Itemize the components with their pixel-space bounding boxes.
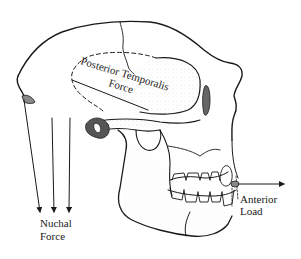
anterior-label-line1: Anterior bbox=[240, 193, 278, 205]
mandible bbox=[118, 130, 238, 236]
anterior-load-label: Anterior Load bbox=[240, 193, 278, 217]
nuchal-label-line1: Nuchal bbox=[40, 217, 72, 229]
anterior-label-line2: Load bbox=[240, 205, 263, 217]
nuchal-force-arrows bbox=[24, 100, 70, 212]
nuchal-label: Nuchal Force bbox=[40, 217, 72, 242]
zygomatic-arch bbox=[86, 118, 200, 150]
orbit bbox=[203, 86, 210, 116]
nuchal-label-line2: Force bbox=[40, 230, 65, 242]
incisor-contact-point bbox=[231, 181, 239, 187]
skull-force-diagram: Posterior Temporalis Force Nuchal Force … bbox=[0, 0, 301, 259]
